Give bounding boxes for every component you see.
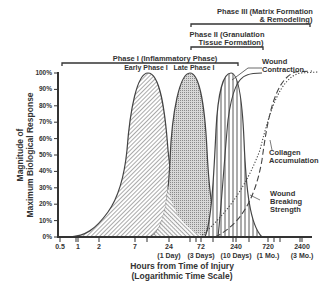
svg-text:7: 7 <box>133 243 137 250</box>
late-phase-label: Late Phase I <box>174 64 215 71</box>
svg-text:240: 240 <box>230 243 242 250</box>
phase2-label-line2: Tissue Formation) <box>199 38 264 47</box>
svg-text:80%: 80% <box>39 102 52 109</box>
svg-text:40%: 40% <box>39 167 52 174</box>
svg-text:(1 Day): (1 Day) <box>157 252 180 260</box>
y-tick-labels: 100% 90% 80% 70% 60% 50% 40% 30% 20% 10%… <box>35 69 52 240</box>
svg-text:20%: 20% <box>39 200 52 207</box>
svg-text:(10 Days): (10 Days) <box>220 252 251 260</box>
x-axis-subtitle: (Logarithmic Time Scale) <box>132 271 233 281</box>
svg-text:90%: 90% <box>39 85 52 92</box>
wound-healing-chart: Phase I (Inflammatory Phase) Phase II (G… <box>0 0 332 287</box>
svg-text:72: 72 <box>197 243 205 250</box>
phase2-curve <box>205 73 262 237</box>
svg-text:60%: 60% <box>39 135 52 142</box>
phase1-label: Phase I (Inflammatory Phase) <box>113 54 218 63</box>
svg-text:Magnitude of: Magnitude of <box>15 128 25 181</box>
svg-text:720: 720 <box>262 243 274 250</box>
svg-text:(3 Days): (3 Days) <box>187 252 214 260</box>
strength-label-3: Strength <box>270 205 301 214</box>
svg-text:(1 Mo.): (1 Mo.) <box>257 252 280 260</box>
svg-text:50%: 50% <box>39 151 52 158</box>
svg-text:70%: 70% <box>39 118 52 125</box>
svg-text:(3 Mo.): (3 Mo.) <box>291 252 314 260</box>
early-phase-label: Early Phase I <box>124 64 168 72</box>
svg-text:30%: 30% <box>39 184 52 191</box>
contraction-label-2: Contraction <box>262 65 305 74</box>
phase3-label-line2: & Remodeling) <box>260 15 313 24</box>
svg-text:100%: 100% <box>35 69 52 76</box>
svg-text:2400: 2400 <box>294 243 310 250</box>
chart-svg: Phase I (Inflammatory Phase) Phase II (G… <box>0 0 332 287</box>
x-tick-labels: 0.5 1 2 7 24 72 240 720 2400 (1 Day) (3 … <box>55 243 313 260</box>
y-axis-title: Magnitude of Maximum Biological Response <box>15 92 35 217</box>
svg-text:10%: 10% <box>39 217 52 224</box>
collagen-label-2: Accumulation <box>269 156 319 165</box>
svg-text:0.5: 0.5 <box>55 243 65 250</box>
svg-text:0%: 0% <box>43 233 53 240</box>
svg-text:24: 24 <box>165 243 173 250</box>
svg-text:Maximum Biological Response: Maximum Biological Response <box>25 92 35 217</box>
svg-text:1: 1 <box>76 243 80 250</box>
svg-text:2: 2 <box>97 243 101 250</box>
x-axis-title: Hours from Time of Injury <box>130 261 234 271</box>
